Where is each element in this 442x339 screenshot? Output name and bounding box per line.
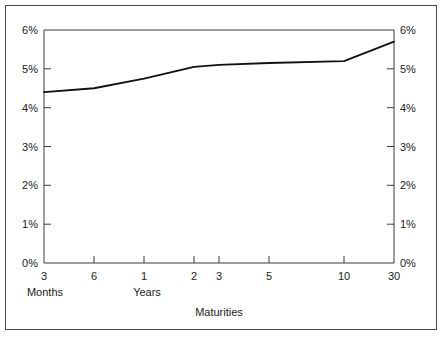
yield-curve-chart: 0% 1% 2% 3% 4% 5% 6% 0% 1% 2% 3% 4% 5% 6… (0, 0, 442, 339)
x-axis-ticks (94, 256, 344, 263)
y-left-tick-0: 0% (22, 257, 38, 269)
x-axis-labels: 3 6 1 2 3 5 10 30 (41, 270, 400, 282)
x-tick-5-year: 5 (266, 270, 272, 282)
x-axis-group-labels: Months Years (27, 286, 161, 298)
x-tick-1-year: 1 (141, 270, 147, 282)
x-axis-title: Maturities (195, 306, 243, 318)
y-right-tick-5: 5% (400, 63, 416, 75)
chart-figure: 0% 1% 2% 3% 4% 5% 6% 0% 1% 2% 3% 4% 5% 6… (0, 0, 442, 339)
y-right-tick-0: 0% (400, 257, 416, 269)
y-right-tick-4: 4% (400, 102, 416, 114)
x-tick-10-year: 10 (338, 270, 350, 282)
y-right-tick-3: 3% (400, 141, 416, 153)
x-group-label-months: Months (27, 286, 64, 298)
y-axis-right-labels: 0% 1% 2% 3% 4% 5% 6% (400, 24, 416, 269)
y-left-tick-2: 2% (22, 179, 38, 191)
y-axis-left-labels: 0% 1% 2% 3% 4% 5% 6% (22, 24, 38, 269)
yield-curve-line (44, 42, 394, 92)
x-tick-3-months: 3 (41, 270, 47, 282)
y-left-tick-3: 3% (22, 141, 38, 153)
y-axis-right-ticks (387, 69, 394, 224)
y-left-tick-4: 4% (22, 102, 38, 114)
x-tick-3-year: 3 (216, 270, 222, 282)
y-left-tick-5: 5% (22, 63, 38, 75)
y-right-tick-2: 2% (400, 179, 416, 191)
x-tick-30-year: 30 (388, 270, 400, 282)
y-left-tick-6: 6% (22, 24, 38, 36)
y-left-tick-1: 1% (22, 218, 38, 230)
x-tick-6-months: 6 (91, 270, 97, 282)
y-right-tick-6: 6% (400, 24, 416, 36)
x-group-label-years: Years (133, 286, 161, 298)
y-right-tick-1: 1% (400, 218, 416, 230)
x-tick-2-year: 2 (191, 270, 197, 282)
